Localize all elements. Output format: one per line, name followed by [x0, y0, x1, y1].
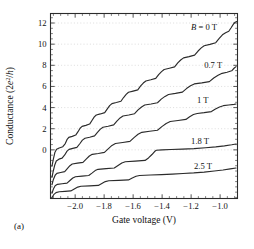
svg-text:Conductance (2e2/h): Conductance (2e2/h)	[4, 67, 17, 145]
figure-panel-a: −2.0−1.8−1.6−1.4−1.2−1.0024681012Gate vo…	[0, 0, 254, 249]
curve-annotation: 2.5 T	[194, 161, 213, 171]
x-tick-label: −1.6	[125, 201, 141, 211]
y-tick-label: 12	[38, 18, 47, 28]
x-tick-label: −1.4	[154, 201, 170, 211]
y-axis-title: Conductance (2e2/h)	[4, 67, 17, 145]
x-axis-title: Gate voltage (V)	[112, 215, 176, 226]
y-tick-label: 0	[42, 145, 46, 155]
y-tick-label: 10	[38, 39, 47, 49]
panel-label: (a)	[14, 221, 24, 231]
x-tick-label: −2.0	[67, 201, 83, 211]
y-tick-label: 2	[42, 124, 46, 134]
y-tick-label: 6	[42, 81, 47, 91]
curve-annotation: 1.8 T	[191, 136, 210, 146]
curve-annotation: 1 T	[197, 95, 209, 105]
y-tick-label: 8	[42, 60, 46, 70]
x-tick-label: −1.0	[212, 201, 228, 211]
x-tick-label: −1.2	[183, 201, 199, 211]
conductance-plot: −2.0−1.8−1.6−1.4−1.2−1.0024681012Gate vo…	[0, 0, 254, 249]
curve-annotation: B = 0 T	[191, 22, 218, 32]
x-tick-label: −1.8	[96, 201, 112, 211]
y-tick-label: 4	[42, 103, 47, 113]
curve-annotation: 0.7 T	[204, 60, 223, 70]
